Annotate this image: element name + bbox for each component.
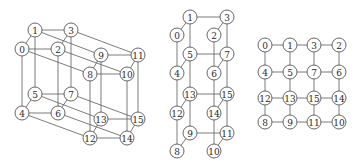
node-4: 4 bbox=[15, 106, 29, 120]
node-label: 13 bbox=[284, 94, 296, 104]
node-4: 4 bbox=[258, 65, 272, 79]
node-label: 7 bbox=[224, 50, 230, 60]
node-2: 2 bbox=[332, 38, 346, 52]
node-label: 0 bbox=[262, 41, 268, 51]
node-12: 12 bbox=[170, 106, 184, 120]
node-label: 15 bbox=[308, 94, 320, 104]
node-label: 9 bbox=[98, 51, 104, 61]
node-2: 2 bbox=[51, 42, 65, 56]
node-10: 10 bbox=[120, 67, 134, 81]
node-label: 5 bbox=[187, 50, 193, 60]
node-label: 15 bbox=[221, 90, 233, 100]
node-label: 7 bbox=[68, 90, 74, 100]
node-label: 13 bbox=[184, 90, 196, 100]
node-label: 2 bbox=[336, 41, 342, 51]
node-12: 12 bbox=[83, 131, 97, 145]
node-label: 12 bbox=[259, 94, 270, 104]
node-3: 3 bbox=[220, 10, 234, 24]
node-7: 7 bbox=[64, 87, 78, 101]
node-label: 1 bbox=[287, 41, 293, 51]
node-8: 8 bbox=[83, 67, 97, 81]
node-label: 3 bbox=[311, 41, 317, 51]
node-label: 11 bbox=[308, 118, 319, 128]
node-9: 9 bbox=[183, 126, 197, 140]
node-label: 11 bbox=[132, 51, 143, 61]
node-label: 8 bbox=[262, 118, 268, 128]
node-10: 10 bbox=[207, 144, 221, 158]
node-9: 9 bbox=[94, 48, 108, 62]
node-15: 15 bbox=[220, 87, 234, 101]
node-label: 5 bbox=[287, 68, 293, 78]
node-15: 15 bbox=[307, 91, 321, 105]
node-5: 5 bbox=[28, 87, 42, 101]
node-label: 6 bbox=[55, 109, 61, 119]
edges bbox=[22, 30, 138, 138]
node-label: 1 bbox=[187, 13, 193, 23]
node-6: 6 bbox=[51, 106, 65, 120]
node-label: 6 bbox=[211, 69, 217, 79]
node-7: 7 bbox=[307, 65, 321, 79]
node-label: 9 bbox=[187, 129, 193, 139]
node-2: 2 bbox=[207, 28, 221, 42]
mesh-4x4-graph: 0132457612131514891110 bbox=[258, 38, 346, 129]
node-label: 7 bbox=[311, 68, 317, 78]
hypercube-3d-graph: 0123456789101112131415 bbox=[15, 23, 145, 145]
node-label: 6 bbox=[336, 68, 342, 78]
node-9: 9 bbox=[283, 115, 297, 129]
node-6: 6 bbox=[332, 65, 346, 79]
node-label: 10 bbox=[333, 118, 345, 128]
node-3: 3 bbox=[307, 38, 321, 52]
node-label: 3 bbox=[68, 26, 74, 36]
node-label: 2 bbox=[55, 45, 61, 55]
node-label: 8 bbox=[87, 70, 93, 80]
node-7: 7 bbox=[220, 47, 234, 61]
diagram-canvas: 0123456789101112131415 01234567121314158… bbox=[0, 0, 359, 166]
node-label: 2 bbox=[211, 31, 217, 41]
node-11: 11 bbox=[131, 48, 145, 62]
node-label: 8 bbox=[174, 147, 180, 157]
node-label: 9 bbox=[287, 118, 293, 128]
node-0: 0 bbox=[170, 28, 184, 42]
node-label: 3 bbox=[224, 13, 230, 23]
node-label: 12 bbox=[171, 109, 182, 119]
node-11: 11 bbox=[220, 126, 234, 140]
node-label: 4 bbox=[262, 68, 268, 78]
node-label: 12 bbox=[84, 134, 95, 144]
node-5: 5 bbox=[283, 65, 297, 79]
node-label: 10 bbox=[121, 70, 133, 80]
node-13: 13 bbox=[183, 87, 197, 101]
node-label: 13 bbox=[95, 115, 107, 125]
node-label: 15 bbox=[132, 115, 144, 125]
node-4: 4 bbox=[170, 66, 184, 80]
unfolded-ladder-graph: 0123456712131415891011 bbox=[170, 10, 234, 158]
node-3: 3 bbox=[64, 23, 78, 37]
node-0: 0 bbox=[258, 38, 272, 52]
node-label: 1 bbox=[32, 26, 38, 36]
node-label: 0 bbox=[19, 45, 25, 55]
node-14: 14 bbox=[120, 131, 134, 145]
node-label: 5 bbox=[32, 90, 38, 100]
node-label: 14 bbox=[121, 134, 133, 144]
node-15: 15 bbox=[131, 112, 145, 126]
node-1: 1 bbox=[183, 10, 197, 24]
node-label: 4 bbox=[19, 109, 25, 119]
node-11: 11 bbox=[307, 115, 321, 129]
edges bbox=[265, 45, 339, 122]
node-1: 1 bbox=[283, 38, 297, 52]
node-8: 8 bbox=[170, 144, 184, 158]
node-label: 4 bbox=[174, 69, 180, 79]
node-6: 6 bbox=[207, 66, 221, 80]
node-13: 13 bbox=[94, 112, 108, 126]
node-0: 0 bbox=[15, 42, 29, 56]
node-label: 14 bbox=[208, 109, 220, 119]
node-12: 12 bbox=[258, 91, 272, 105]
node-label: 14 bbox=[333, 94, 345, 104]
node-label: 10 bbox=[208, 147, 220, 157]
node-13: 13 bbox=[283, 91, 297, 105]
node-14: 14 bbox=[207, 106, 221, 120]
node-14: 14 bbox=[332, 91, 346, 105]
node-10: 10 bbox=[332, 115, 346, 129]
node-1: 1 bbox=[28, 23, 42, 37]
node-8: 8 bbox=[258, 115, 272, 129]
node-label: 11 bbox=[221, 129, 232, 139]
